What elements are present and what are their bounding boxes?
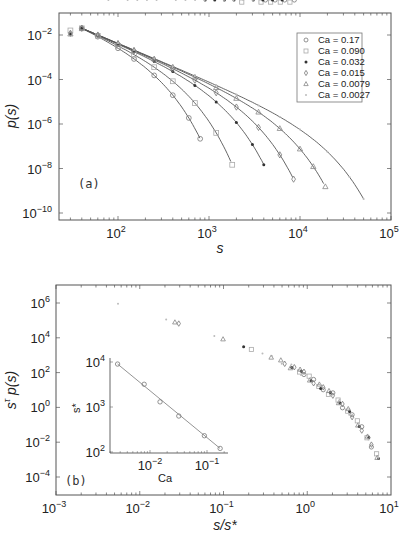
panel-a: 10210310410510−210−410−610−810−10 (a) s … bbox=[3, 13, 399, 256]
panel-a-ylabel: p(s) bbox=[3, 104, 19, 129]
data-point-square bbox=[355, 419, 359, 423]
tick-label: 101 bbox=[379, 499, 398, 516]
data-point-circle bbox=[158, 400, 162, 404]
tick-label: 10−4 bbox=[27, 71, 52, 88]
fit-curve bbox=[80, 27, 293, 177]
data-point-dot bbox=[235, 94, 237, 96]
data-point-square bbox=[374, 452, 378, 456]
data-point-dot bbox=[279, 116, 281, 118]
tick-label: 102 bbox=[106, 224, 125, 241]
data-point-dot bbox=[136, 0, 138, 1]
fit-curve bbox=[80, 27, 200, 138]
data-point-dot bbox=[213, 335, 215, 337]
data-point-dot bbox=[300, 374, 302, 376]
tick-label: 10−2 bbox=[25, 433, 50, 450]
inset-data bbox=[115, 362, 222, 451]
panel-b-frame bbox=[56, 285, 391, 495]
data-point-star bbox=[193, 84, 196, 87]
tick-label: 102 bbox=[86, 443, 105, 460]
data-point-dot bbox=[133, 49, 135, 51]
tick-label: 103 bbox=[197, 224, 216, 241]
data-point-diamond bbox=[177, 321, 180, 326]
data-point-dot bbox=[290, 363, 292, 365]
legend-item-label: Ca = 0.0027 bbox=[318, 89, 370, 100]
data-point-dot bbox=[377, 457, 379, 459]
tick-label: 102 bbox=[31, 364, 50, 381]
tick-label: 10−8 bbox=[27, 160, 52, 177]
data-point-dot bbox=[215, 84, 217, 86]
fit-curve bbox=[80, 27, 324, 183]
legend-item-label: Ca = 0.015 bbox=[318, 67, 365, 78]
data-point-dot bbox=[107, 0, 109, 1]
data-point-triangle bbox=[346, 406, 351, 410]
data-point-square bbox=[288, 0, 292, 4]
inset-ticks: 10−210−1104103102 bbox=[86, 353, 225, 473]
data-point-dot bbox=[97, 34, 99, 36]
data-point-dot bbox=[305, 94, 307, 96]
panel-a-tag: (a) bbox=[78, 177, 100, 191]
data-point-star bbox=[242, 345, 245, 348]
data-point-dot bbox=[299, 129, 301, 131]
tick-label: 10−3 bbox=[42, 499, 67, 516]
tick-label: 104 bbox=[86, 353, 105, 370]
data-point-dot bbox=[127, 0, 129, 1]
data-point-square bbox=[230, 162, 235, 167]
data-point-diamond bbox=[331, 393, 334, 398]
data-point-star bbox=[305, 61, 308, 64]
data-point-dot bbox=[261, 352, 263, 354]
data-point-dot bbox=[329, 394, 331, 396]
tick-label: 100 bbox=[31, 398, 50, 415]
tick-label: 103 bbox=[86, 398, 105, 415]
fit-curve bbox=[80, 27, 231, 161]
data-point-star bbox=[235, 121, 238, 124]
panel-b-xlabel: s/s* bbox=[213, 517, 237, 533]
tick-label: 106 bbox=[31, 294, 50, 311]
tick-label: 10−2 bbox=[125, 499, 150, 516]
panel-a-xlabel: s bbox=[217, 240, 224, 256]
legend-item-label: Ca = 0.090 bbox=[318, 45, 365, 56]
inset-fit-line bbox=[118, 364, 221, 448]
data-point-dot bbox=[172, 65, 174, 67]
data-point-dot bbox=[156, 0, 158, 1]
data-point-triangle bbox=[173, 320, 178, 324]
tick-label: 10−2 bbox=[138, 456, 163, 473]
data-point-dot bbox=[194, 0, 196, 1]
data-point-star bbox=[215, 100, 218, 103]
tick-label: 10−1 bbox=[209, 499, 234, 516]
data-point-dot bbox=[184, 0, 186, 1]
data-point-star bbox=[262, 163, 265, 166]
data-point-dot bbox=[358, 422, 360, 424]
data-point-triangle bbox=[298, 367, 303, 371]
tick-label: 104 bbox=[288, 224, 307, 241]
inset-chart: 10−210−1104103102 Ca s* bbox=[70, 353, 228, 484]
data-point-triangle bbox=[221, 337, 226, 341]
data-point-dot bbox=[175, 0, 177, 1]
tick-label: 10−1 bbox=[195, 456, 220, 473]
data-point-dot bbox=[117, 42, 119, 44]
data-point-dot bbox=[310, 377, 312, 379]
tick-label: 105 bbox=[379, 224, 398, 241]
data-point-star bbox=[213, 0, 216, 2]
data-point-dot bbox=[117, 303, 119, 305]
inset-xlabel: Ca bbox=[158, 472, 173, 484]
data-point-dot bbox=[281, 363, 283, 365]
data-point-triangle bbox=[279, 358, 284, 362]
legend-item-label: Ca = 0.17 bbox=[318, 34, 359, 45]
data-point-star bbox=[251, 143, 254, 146]
tick-label: 10−2 bbox=[27, 26, 52, 43]
data-point-dot bbox=[339, 399, 341, 401]
tick-label: 10−6 bbox=[27, 115, 52, 132]
data-point-dot bbox=[258, 104, 260, 106]
data-point-dot bbox=[319, 383, 321, 385]
data-point-dot bbox=[146, 0, 148, 1]
panel-b-tag: (b) bbox=[65, 474, 87, 488]
data-point-dot bbox=[367, 438, 369, 440]
inset-ylabel: s* bbox=[70, 402, 82, 413]
data-point-dot bbox=[271, 355, 273, 357]
data-point-square bbox=[249, 347, 253, 351]
legend: Ca = 0.17Ca = 0.090Ca = 0.032Ca = 0.015C… bbox=[297, 33, 370, 102]
data-point-dot bbox=[153, 58, 155, 60]
panel-b-ylabel: sτ p(s) bbox=[2, 371, 19, 409]
data-point-dot bbox=[326, 151, 328, 153]
legend-item-label: Ca = 0.0079 bbox=[318, 78, 370, 89]
